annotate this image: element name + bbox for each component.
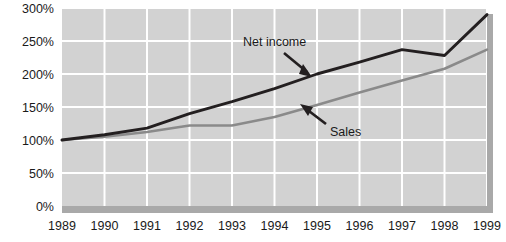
y-axis-tick-label: 50% bbox=[29, 167, 54, 181]
x-axis-tick-label: 1991 bbox=[133, 219, 161, 233]
y-axis-tick-label: 100% bbox=[22, 134, 54, 148]
x-axis-tick-label: 1996 bbox=[346, 219, 374, 233]
y-axis-tick-labels: 0%50%100%150%200%250%300% bbox=[22, 2, 54, 214]
y-axis-tick-label: 150% bbox=[22, 101, 54, 115]
y-axis-tick-label: 200% bbox=[22, 68, 54, 82]
x-axis-tick-label: 1997 bbox=[388, 219, 416, 233]
x-axis-tick-label: 1992 bbox=[176, 219, 204, 233]
x-axis-tick-label: 1995 bbox=[303, 219, 331, 233]
x-axis-tick-label: 1998 bbox=[431, 219, 459, 233]
x-axis-tick-label: 1994 bbox=[261, 219, 289, 233]
x-axis-tick-label: 1993 bbox=[218, 219, 246, 233]
plot-right-shadow bbox=[487, 14, 493, 213]
y-axis-tick-label: 0% bbox=[36, 200, 54, 214]
annotation-sales-label: Sales bbox=[330, 125, 361, 139]
y-axis-tick-label: 250% bbox=[22, 35, 54, 49]
chart-canvas: 0%50%100%150%200%250%300% 19891990199119… bbox=[0, 0, 506, 242]
x-axis-tick-labels: 1989199019911992199319941995199619971998… bbox=[48, 219, 501, 233]
x-axis-tick-label: 1989 bbox=[48, 219, 76, 233]
x-axis-tick-label: 1990 bbox=[91, 219, 119, 233]
plot-bottom-shadow bbox=[62, 206, 492, 213]
x-axis-tick-label: 1999 bbox=[473, 219, 501, 233]
line-chart: 0%50%100%150%200%250%300% 19891990199119… bbox=[0, 0, 506, 242]
y-axis-tick-label: 300% bbox=[22, 2, 54, 16]
annotation-net-income-label: Net income bbox=[243, 35, 306, 49]
